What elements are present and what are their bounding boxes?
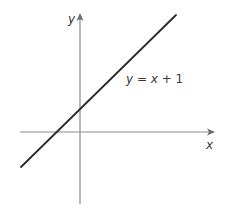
equation-equals: =	[133, 72, 151, 86]
line-equation-label: y = x + 1	[125, 72, 183, 86]
x-axis	[20, 129, 215, 136]
x-axis-label: x	[205, 138, 214, 152]
equation-plus-one: + 1	[158, 72, 183, 86]
line-y-equals-x-plus-1	[21, 15, 176, 167]
linear-function-graph: y x y = x + 1	[0, 0, 230, 215]
y-axis-label: y	[67, 12, 76, 26]
